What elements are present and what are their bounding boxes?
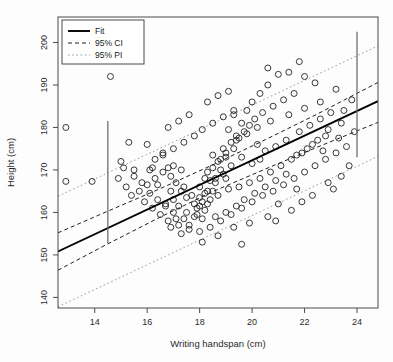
svg-text:95% PI: 95% PI	[95, 50, 122, 60]
svg-text:Writing handspan (cm): Writing handspan (cm)	[170, 338, 265, 349]
svg-text:200: 200	[39, 35, 49, 50]
svg-text:16: 16	[142, 317, 152, 327]
svg-text:20: 20	[247, 317, 257, 327]
svg-text:140: 140	[39, 290, 49, 305]
svg-text:18: 18	[195, 317, 205, 327]
chart-container: 141618202224140150160170180190200Writing…	[0, 0, 393, 362]
svg-text:95% CI: 95% CI	[95, 38, 123, 48]
legend: Fit95% CI95% PI	[62, 20, 144, 64]
fit-line	[58, 101, 378, 251]
data-points-layer	[63, 59, 358, 248]
svg-text:Fit: Fit	[95, 26, 105, 36]
svg-text:180: 180	[39, 120, 49, 135]
svg-text:170: 170	[39, 162, 49, 177]
svg-text:24: 24	[352, 317, 362, 327]
svg-text:22: 22	[300, 317, 310, 327]
svg-text:150: 150	[39, 247, 49, 262]
svg-text:Height (cm): Height (cm)	[5, 138, 16, 187]
svg-text:160: 160	[39, 205, 49, 220]
svg-text:14: 14	[90, 317, 100, 327]
scatter-plot: 141618202224140150160170180190200Writing…	[0, 0, 393, 362]
svg-text:190: 190	[39, 77, 49, 92]
